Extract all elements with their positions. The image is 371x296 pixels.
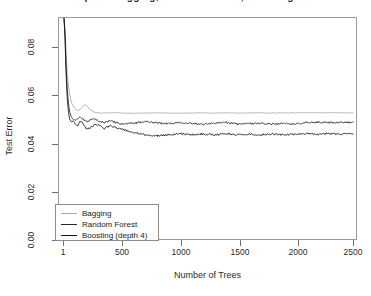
chart-title: Spam: Bagging, Random Forest, Boosting [0, 0, 371, 2]
chart-legend: Bagging Random Forest Boosting (depth 4) [55, 204, 159, 241]
series-line-bagging [64, 18, 353, 114]
y-tick-label-0.00: 0.00 [18, 235, 44, 245]
y-tick-label-0.08: 0.08 [18, 42, 44, 52]
y-tick-label-0.02: 0.02 [18, 187, 44, 197]
legend-label-boosting: Boosting (depth 4) [82, 230, 147, 241]
legend-item-random-forest: Random Forest [56, 219, 158, 230]
legend-swatch-boosting [61, 235, 77, 236]
x-tick-2500 [353, 240, 354, 246]
x-tick-label-500: 500 [115, 247, 129, 257]
x-axis-title: Number of Trees [58, 270, 357, 280]
legend-label-random-forest: Random Forest [82, 219, 137, 230]
x-tick-1500 [240, 240, 241, 246]
x-tick-2000 [298, 240, 299, 246]
y-tick-0.04 [52, 144, 58, 145]
x-tick-label-1500: 1500 [231, 247, 250, 257]
legend-swatch-bagging [61, 213, 77, 214]
y-tick-0.08 [52, 47, 58, 48]
chart-figure: Spam: Bagging, Random Forest, Boosting 0… [0, 0, 371, 296]
y-tick-label-0.04: 0.04 [18, 139, 44, 149]
x-tick-label-1000: 1000 [172, 247, 191, 257]
series-line-boosting-depth-4 [64, 18, 353, 137]
y-tick-label-0.06: 0.06 [18, 90, 44, 100]
y-tick-0.06 [52, 95, 58, 96]
y-tick-0.02 [52, 192, 58, 193]
x-tick-label-2500: 2500 [344, 247, 363, 257]
x-tick-label-1: 1 [61, 247, 66, 257]
legend-item-boosting: Boosting (depth 4) [56, 230, 158, 241]
x-tick-label-2000: 2000 [289, 247, 308, 257]
series-line-random-forest [64, 18, 353, 125]
legend-label-bagging: Bagging [82, 208, 111, 219]
y-axis-title: Test Error [2, 105, 16, 175]
legend-swatch-random-forest [61, 224, 77, 225]
legend-item-bagging: Bagging [56, 208, 158, 219]
x-tick-1000 [181, 240, 182, 246]
